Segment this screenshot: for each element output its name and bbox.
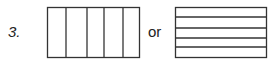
vertical-strips-rectangle [48,8,140,58]
figures-canvas [0,0,271,61]
horizontal-strips-rectangle [176,8,267,58]
